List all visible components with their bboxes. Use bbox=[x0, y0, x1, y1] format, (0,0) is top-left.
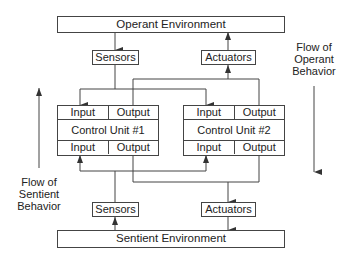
cu1-top-input: Input bbox=[58, 106, 108, 119]
flow-sentient-line3: Behavior bbox=[4, 200, 74, 212]
cu1-bottom-output: Output bbox=[108, 141, 159, 154]
bottom-actuators-box: Actuators bbox=[201, 202, 256, 217]
flow-operant-line1: Flow of bbox=[279, 41, 349, 53]
top-actuators-box: Actuators bbox=[201, 50, 256, 65]
sentient-environment-box: Sentient Environment bbox=[57, 230, 285, 248]
flow-sentient-line1: Flow of bbox=[4, 176, 74, 188]
top-sensors-box: Sensors bbox=[92, 50, 139, 65]
flow-operant-label: Flow of Operant Behavior bbox=[279, 41, 349, 77]
connector-lines bbox=[0, 0, 350, 260]
flow-sentient-label: Flow of Sentient Behavior bbox=[4, 176, 74, 212]
cu1-title: Control Unit #1 bbox=[58, 120, 158, 140]
bottom-sensors-box: Sensors bbox=[92, 202, 139, 217]
cu2-title: Control Unit #2 bbox=[184, 120, 284, 140]
flow-operant-line2: Operant bbox=[279, 53, 349, 65]
top-sensors-label: Sensors bbox=[95, 52, 135, 63]
top-actuators-label: Actuators bbox=[205, 52, 251, 63]
control-unit-1: Input Output Control Unit #1 Input Outpu… bbox=[57, 105, 159, 156]
flow-sentient-line2: Sentient bbox=[4, 188, 74, 200]
cu2-bottom-input: Input bbox=[184, 141, 234, 154]
bottom-sensors-label: Sensors bbox=[95, 204, 135, 215]
cu2-bottom-output: Output bbox=[234, 141, 285, 154]
bottom-actuators-label: Actuators bbox=[205, 204, 251, 215]
flow-operant-line3: Behavior bbox=[279, 65, 349, 77]
operant-environment-label: Operant Environment bbox=[116, 19, 225, 31]
cu1-top-output: Output bbox=[108, 106, 159, 119]
cu2-top-input: Input bbox=[184, 106, 234, 119]
control-unit-2: Input Output Control Unit #2 Input Outpu… bbox=[183, 105, 285, 156]
cu1-bottom-input: Input bbox=[58, 141, 108, 154]
cu2-top-output: Output bbox=[234, 106, 285, 119]
operant-environment-box: Operant Environment bbox=[57, 16, 285, 33]
sentient-environment-label: Sentient Environment bbox=[116, 233, 226, 245]
